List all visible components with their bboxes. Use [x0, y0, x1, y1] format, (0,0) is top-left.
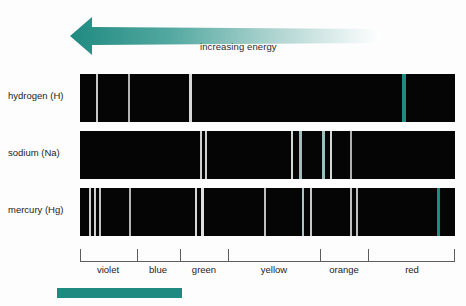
color-band-label: violet — [97, 264, 119, 275]
emission-line — [402, 74, 406, 122]
emission-line — [89, 188, 91, 236]
spectra-figure: increasing energy hydrogen (H)sodium (Na… — [0, 0, 466, 306]
spectrum-row: mercury (Hg) — [0, 188, 466, 236]
emission-line — [356, 188, 358, 236]
emission-line — [201, 188, 204, 236]
axis-tick — [454, 249, 455, 262]
arrow-label: increasing energy — [200, 41, 277, 52]
color-swatch-bar — [57, 288, 182, 298]
emission-line — [200, 131, 202, 179]
axis-tick — [228, 249, 229, 262]
spectrum-label: sodium (Na) — [8, 147, 78, 158]
emission-line — [205, 131, 207, 179]
color-band-label: yellow — [261, 264, 287, 275]
color-axis — [80, 248, 455, 262]
color-band-label: red — [405, 264, 419, 275]
spectrum-label: mercury (Hg) — [8, 204, 78, 215]
emission-line — [94, 188, 96, 236]
emission-line — [99, 188, 101, 236]
color-band-label: orange — [329, 264, 359, 275]
emission-line — [291, 131, 293, 179]
spectrum-band — [80, 74, 455, 122]
color-band-label: blue — [149, 264, 167, 275]
axis-tick — [368, 249, 369, 262]
axis-tick — [320, 249, 321, 262]
spectrum-band — [80, 188, 455, 236]
emission-line — [299, 131, 302, 179]
axis-tick — [137, 249, 138, 262]
spectrum-label: hydrogen (H) — [8, 90, 78, 101]
spectrum-band — [80, 131, 455, 179]
emission-line — [264, 188, 266, 236]
increasing-energy-arrow: increasing energy — [70, 14, 380, 58]
emission-line — [189, 74, 192, 122]
spectrum-row: hydrogen (H) — [0, 74, 466, 122]
emission-line — [302, 188, 304, 236]
emission-line — [322, 131, 325, 179]
emission-line — [437, 188, 440, 236]
emission-line — [195, 188, 197, 236]
emission-line — [96, 74, 98, 122]
spectrum-row: sodium (Na) — [0, 131, 466, 179]
color-band-label: green — [192, 264, 216, 275]
emission-line — [350, 188, 352, 236]
emission-line — [129, 188, 131, 236]
emission-line — [350, 131, 352, 179]
emission-line — [310, 188, 312, 236]
emission-line — [330, 131, 332, 179]
axis-tick — [80, 249, 81, 262]
axis-tick — [180, 249, 181, 262]
emission-line — [128, 74, 130, 122]
